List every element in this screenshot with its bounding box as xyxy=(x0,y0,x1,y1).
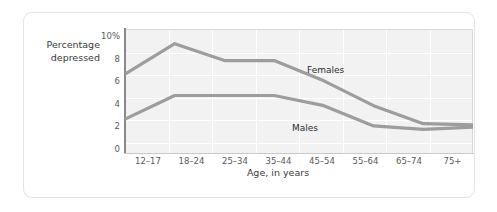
y-axis-title: Percentage depressed xyxy=(22,39,100,64)
y-tick-label-10: 10% xyxy=(90,31,120,41)
x-tick-label-45-54: 45–54 xyxy=(299,156,345,166)
x-tick-label-75plus: 75+ xyxy=(430,156,476,166)
x-tick-label-65-74: 65–74 xyxy=(386,156,432,166)
y-tick-label-8: 8 xyxy=(90,54,120,64)
x-tick-label-18-24: 18–24 xyxy=(169,156,215,166)
series-line-females xyxy=(125,44,473,125)
x-tick-label-12-17: 12–17 xyxy=(125,156,171,166)
series-label-males: Males xyxy=(292,123,318,133)
chart-card: Percentage depressed 10% 8 6 4 2 0 12–17… xyxy=(23,12,475,198)
series-plot xyxy=(125,29,473,153)
y-tick-label-6: 6 xyxy=(90,76,120,86)
x-axis-line xyxy=(124,153,474,154)
y-tick-label-4: 4 xyxy=(90,99,120,109)
x-tick-label-35-44: 35–44 xyxy=(256,156,302,166)
x-tick-label-25-34: 25–34 xyxy=(212,156,258,166)
y-tick-label-2: 2 xyxy=(90,121,120,131)
x-axis-title: Age, in years xyxy=(24,167,474,178)
x-tick-label-55-64: 55–64 xyxy=(343,156,389,166)
series-label-females: Females xyxy=(307,65,344,75)
y-tick-label-0: 0 xyxy=(90,144,120,154)
